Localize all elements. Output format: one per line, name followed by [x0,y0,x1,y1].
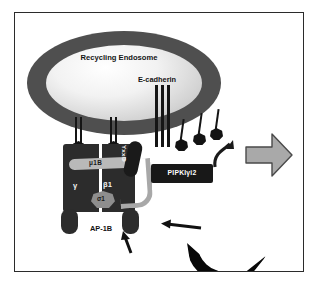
clathrin-recruitment-arrow [155,219,205,233]
sigma1-subunit-label: σ1 [97,195,105,202]
beta1-subunit-label: β1 [103,180,112,189]
e-cadherin-label: E-cadherin [111,75,203,84]
cargo-stalk [110,117,112,145]
cargo-stalk [115,117,117,145]
mu1b-subunit-label: μ1B [89,159,102,166]
transport-arrow-to-plasma-membrane [244,131,294,179]
figure-frame: Plasma Membrane Recycling Endosome E-cad… [14,12,304,272]
cargo-stalk [80,117,82,145]
gamma-subunit-label: γ [73,181,77,190]
clathrin-right-label: Clathrin [206,225,230,248]
pipki-gamma-i2-label: PIPKIγi2 [151,169,213,176]
figure-canvas: Plasma Membrane Recycling Endosome E-cad… [0,0,319,291]
e-cadherin-rod-bundle [155,85,173,147]
recycling-endosome-label: Recycling Endosome [59,53,179,62]
cargo-stalk [75,117,77,145]
clathrin-assembly-arrow [119,229,137,255]
yxxphi-motif-label: YxxΦ [121,145,128,162]
clathrin-bottom-label: Clathrin [133,267,183,272]
cargo-head [193,133,206,145]
plasma-membrane-label: Plasma Membrane [284,27,294,105]
cargo-head [175,139,188,151]
cargo-exit-curved-arrow [211,137,237,169]
